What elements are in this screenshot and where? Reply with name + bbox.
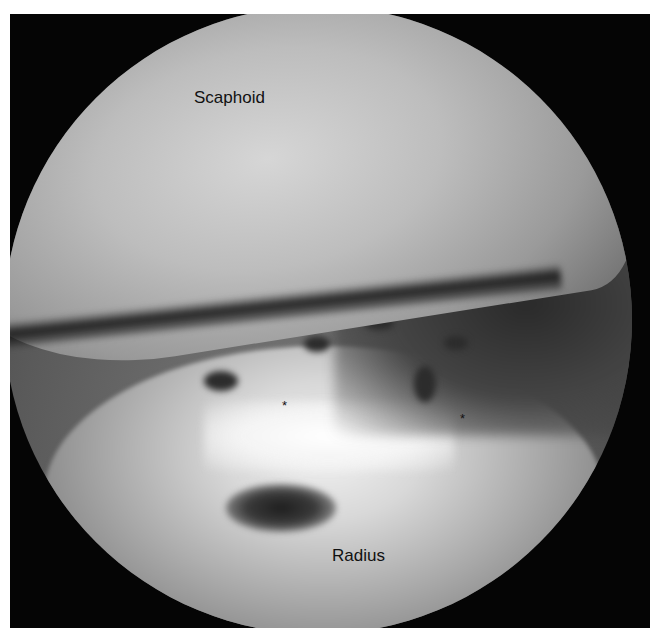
shadow-spot [444,336,468,350]
marker-asterisk: * [282,399,287,412]
shadow-spot [304,336,330,352]
image-frame [10,14,650,628]
label-radius: Radius [332,546,385,566]
radius-groove [226,484,336,532]
label-scaphoid: Scaphoid [194,88,265,108]
arthroscope-view [10,14,632,628]
shadow-spot [204,371,238,391]
shadow-spot [414,366,436,402]
marker-asterisk: * [460,412,465,425]
